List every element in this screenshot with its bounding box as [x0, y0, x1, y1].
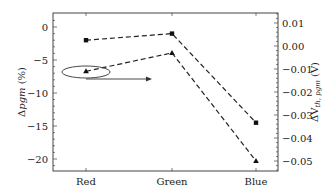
data-series: [83, 31, 259, 163]
left-tick-label: −20: [27, 154, 48, 165]
plot-frame: [53, 13, 278, 171]
square-marker-icon: [84, 38, 88, 42]
x-category-label: Blue: [245, 176, 268, 187]
right-tick-label: 0.00: [282, 41, 304, 52]
x-category-label: Green: [156, 176, 188, 187]
left-tick-label: −15: [27, 121, 48, 132]
right-axis-tick-labels: 0.010.00−0.01−0.02−0.03−0.04−0.05: [282, 18, 313, 167]
series-line: [86, 53, 256, 161]
right-axis-ticks: [274, 14, 278, 170]
triangle-marker-icon: [169, 50, 175, 55]
left-tick-label: −10: [27, 88, 48, 99]
right-tick-label: −0.04: [282, 133, 313, 144]
right-tick-label: 0.01: [282, 18, 304, 29]
right-tick-label: −0.05: [282, 156, 313, 167]
right-tick-label: −0.02: [282, 87, 313, 98]
square-marker-icon: [170, 31, 174, 35]
square-marker-icon: [254, 121, 258, 125]
left-axis-ticks: [53, 20, 57, 165]
left-tick-label: −5: [33, 55, 48, 66]
left-tick-label: 0: [42, 22, 48, 33]
left-axis-tick-labels: 0−5−10−15−20: [27, 22, 48, 165]
x-category-label: Red: [76, 176, 96, 187]
series-line: [86, 34, 256, 123]
chart: 0−5−10−15−20 0.010.00−0.01−0.02−0.03−0.0…: [0, 0, 333, 193]
left-axis-label: Δpgm (%): [16, 67, 27, 117]
arrow-head-icon: [146, 77, 152, 82]
triangle-marker-icon: [253, 158, 259, 163]
